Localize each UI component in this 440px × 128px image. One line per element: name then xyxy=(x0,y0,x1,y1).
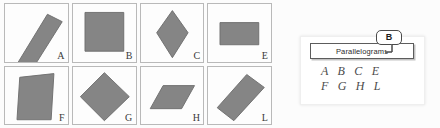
shape-cell-l[interactable]: L xyxy=(207,66,272,126)
callout-tail-icon xyxy=(385,44,395,53)
answer-row: F G H L xyxy=(321,79,384,94)
shape-grid: A B C E F xyxy=(4,3,272,125)
shape-cell-label: E xyxy=(262,50,268,62)
shape-cell-label: C xyxy=(193,50,200,62)
shape-polygon xyxy=(156,11,187,58)
shape-polygon xyxy=(150,85,194,108)
shape-polygon xyxy=(85,12,124,51)
shape-cell-a[interactable]: A xyxy=(4,3,69,63)
shape-polygon xyxy=(17,14,62,61)
category-label-box[interactable]: Parallelograms xyxy=(310,43,414,59)
shape-cell-c[interactable]: C xyxy=(140,3,205,63)
shape-polygon xyxy=(80,72,129,120)
callout-badge-letter: B xyxy=(386,33,393,42)
shape-polygon xyxy=(220,23,259,45)
answer-card: Parallelograms A B C E F G H L xyxy=(300,36,425,105)
shape-cell-g[interactable]: G xyxy=(72,66,137,126)
shape-cell-label: F xyxy=(59,112,65,124)
shape-polygon xyxy=(17,73,54,119)
shape-cell-label: H xyxy=(193,112,200,124)
callout-badge-body: B xyxy=(376,30,402,45)
shape-cell-label: L xyxy=(262,112,268,124)
callout-badge[interactable]: B xyxy=(376,30,402,45)
shape-cell-label: A xyxy=(57,50,64,62)
category-label-text: Parallelograms xyxy=(336,47,388,56)
shape-cell-label: G xyxy=(125,112,132,124)
shape-cell-h[interactable]: H xyxy=(140,66,205,126)
shape-cell-f[interactable]: F xyxy=(4,66,69,126)
shape-polygon xyxy=(217,74,264,120)
shape-cell-label: B xyxy=(126,50,133,62)
shape-cell-e[interactable]: E xyxy=(207,3,272,63)
answer-row: A B C E xyxy=(321,64,382,79)
shape-cell-b[interactable]: B xyxy=(72,3,137,63)
